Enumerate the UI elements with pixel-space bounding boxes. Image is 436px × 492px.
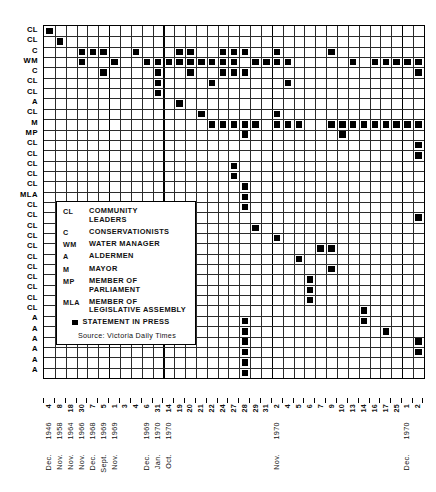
axis-month-6: Nov.	[110, 454, 119, 470]
legend-value-line1: WATER MANAGER	[89, 239, 160, 248]
row-label-c-2: C	[0, 46, 41, 56]
mark-r3-c11	[166, 59, 172, 65]
mark-r3-c22	[285, 59, 291, 65]
axis-year-1: 1958	[55, 422, 64, 440]
mark-r4-c13	[187, 69, 193, 75]
axis-month-9: Dec.	[142, 454, 151, 470]
legend-source: Source: Victoria Daily Times	[63, 331, 191, 340]
axis-day-33: 1	[402, 404, 411, 408]
axis-day-7: 3	[120, 404, 129, 408]
mark-r3-c14	[198, 59, 204, 65]
axis-month-33: Dec.	[402, 454, 411, 470]
row-label-a-32: A	[0, 355, 41, 365]
axis-tick-33	[401, 398, 402, 403]
axis-tick-24	[303, 398, 304, 403]
axis-year-11: 1970	[164, 422, 173, 440]
mark-r3-c12	[176, 59, 182, 65]
mark-r30-c34	[415, 338, 421, 344]
axis-day-26: 9	[327, 404, 336, 408]
row-label-cl-12: CL	[0, 149, 41, 159]
legend-key-c: C	[63, 228, 89, 237]
mark-r5-c22	[285, 80, 291, 86]
mark-r30-c18	[242, 338, 248, 344]
row-label-cl-17: CL	[0, 200, 41, 210]
mark-r17-c18	[242, 204, 248, 210]
mark-r15-c18	[242, 183, 248, 189]
row-label-a-7: A	[0, 97, 41, 107]
mark-r3-c21	[274, 59, 280, 65]
grid-hline-9	[44, 119, 424, 120]
mark-r9-c21	[274, 121, 280, 127]
legend-value-a: ALDERMEN	[89, 252, 134, 261]
mark-r11-c34	[415, 142, 421, 148]
axis-day-13: 20	[185, 404, 194, 413]
grid-hline-5	[44, 78, 424, 79]
legend-press-row: STATEMENT IN PRESS	[63, 318, 191, 327]
legend-value-mla: MEMBER OFLEGISLATIVE ASSEMBLY	[89, 298, 186, 315]
mark-r4-c34	[415, 69, 421, 75]
axis-tick-17	[227, 398, 228, 403]
grid-hline-8	[44, 109, 424, 110]
mark-r3-c20	[263, 59, 269, 65]
legend-key-mp: MP	[63, 277, 89, 286]
legend-key-m: M	[63, 265, 89, 274]
mark-r4-c17	[231, 69, 237, 75]
legend-box: CLCOMMUNITYLEADERSCCONSERVATIONISTSWMWAT…	[56, 201, 196, 345]
mark-r2-c16	[220, 49, 226, 55]
mark-r9-c16	[220, 121, 226, 127]
row-label-cl-13: CL	[0, 159, 41, 169]
mark-r4-c10	[155, 69, 161, 75]
axis-year-9: 1969	[142, 422, 151, 440]
legend-value-wm: WATER MANAGER	[89, 240, 160, 249]
axis-year-21: 1970	[272, 422, 281, 440]
row-label-cl-24: CL	[0, 272, 41, 282]
grid-hline-4	[44, 67, 424, 68]
axis-day-6: 1	[110, 404, 119, 408]
mark-r2-c4	[90, 49, 96, 55]
grid-hline-12	[44, 150, 424, 151]
row-label-cl-21: CL	[0, 241, 41, 251]
mark-r26-c24	[307, 297, 313, 303]
chart-canvas: CLCLCWMCCLCLACLMMPCLCLCLCLCLMLACLCLCLCLC…	[0, 0, 436, 492]
mark-r4-c16	[220, 69, 226, 75]
mark-r9-c23	[296, 121, 302, 127]
axis-day-28: 13	[348, 404, 357, 413]
axis-day-1: 8	[55, 404, 64, 408]
row-label-a-28: A	[0, 313, 41, 323]
legend-key-mla: MLA	[63, 298, 89, 307]
mark-r3-c34	[415, 59, 421, 65]
grid-hline-14	[44, 171, 424, 172]
axis-tick-4	[86, 398, 87, 403]
mark-r9-c28	[350, 121, 356, 127]
mark-r3-c3	[79, 59, 85, 65]
legend-value-line1: CONSERVATIONISTS	[89, 227, 169, 236]
grid-hline-31	[44, 347, 424, 348]
axis-year-2: 1964	[66, 422, 75, 440]
legend-value-cl: COMMUNITYLEADERS	[89, 207, 138, 224]
legend-value-line1: MEMBER OF	[89, 276, 137, 285]
row-label-a-29: A	[0, 324, 41, 334]
legend-row-mla: MLAMEMBER OFLEGISLATIVE ASSEMBLY	[63, 298, 191, 315]
axis-tick-32	[390, 398, 391, 403]
mark-r32-c18	[242, 359, 248, 365]
mark-r2-c12	[176, 49, 182, 55]
mark-r21-c25	[317, 245, 323, 251]
mark-r9-c34	[415, 121, 421, 127]
axis-day-25: 7	[316, 404, 325, 408]
row-label-cl-25: CL	[0, 282, 41, 292]
mark-r9-c22	[285, 121, 291, 127]
mark-r19-c19	[252, 225, 258, 231]
axis-tick-22	[282, 398, 283, 403]
axis-tick-5	[97, 398, 98, 403]
grid-hline-6	[44, 88, 424, 89]
mark-r28-c18	[242, 318, 248, 324]
mark-r1-c1	[57, 38, 63, 44]
axis-tick-0	[43, 398, 44, 403]
grid-hline-2	[44, 47, 424, 48]
row-label-cl-23: CL	[0, 262, 41, 272]
axis-tick-6	[108, 398, 109, 403]
mark-r3-c31	[383, 59, 389, 65]
axis-year-10: 1970	[153, 422, 162, 440]
legend-key-cl: CL	[63, 207, 89, 216]
axis-tick-23	[293, 398, 294, 403]
